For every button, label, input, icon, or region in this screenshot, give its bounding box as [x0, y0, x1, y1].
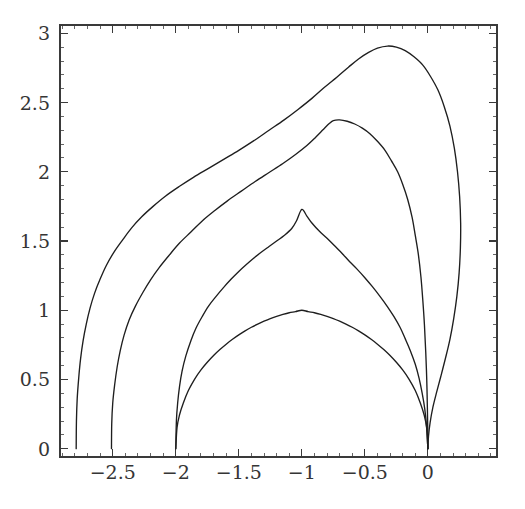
- x-tick-label: −1: [288, 461, 316, 483]
- x-tick-label: −2: [162, 461, 190, 483]
- x-tick-label: 0: [422, 461, 434, 483]
- y-tick-label: 1: [38, 299, 50, 321]
- x-tick-label: −2.5: [90, 461, 136, 483]
- y-tick-label: 3: [38, 22, 50, 44]
- y-tick-label: 0.5: [20, 368, 50, 390]
- x-tick-label: −0.5: [342, 461, 388, 483]
- figure-container: −2.5−2−1.5−1−0.50 00.511.522.53: [0, 0, 525, 509]
- y-tick-label: 1.5: [20, 230, 50, 252]
- x-tick-label: −1.5: [216, 461, 262, 483]
- plot-background: [0, 0, 525, 509]
- y-tick-label: 0: [38, 438, 50, 460]
- y-tick-label: 2.5: [20, 92, 50, 114]
- plot-area: −2.5−2−1.5−1−0.50 00.511.522.53: [0, 0, 525, 509]
- y-tick-label: 2: [38, 161, 50, 183]
